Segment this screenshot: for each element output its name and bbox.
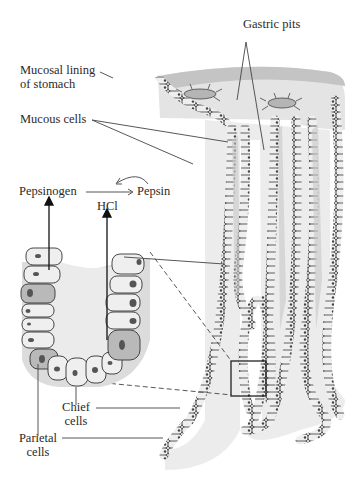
mucous-cells-label: Mucous cells — [20, 112, 86, 126]
enlarged-gland-base — [21, 248, 150, 387]
parietal-cells-label-line1: Parietal — [16, 431, 60, 445]
mucosal-lining-label-line2: of stomach — [20, 77, 75, 91]
gastric-pits-label: Gastric pits — [243, 17, 300, 31]
pepsin-label: Pepsin — [137, 184, 170, 198]
chief-cells-label-line1: Chief — [60, 400, 92, 414]
parietal-cells-label-line2: cells — [16, 445, 60, 459]
chief-cells-label-line2: cells — [60, 414, 92, 428]
hcl-label: HCl — [97, 199, 118, 213]
mucosal-lining-label-line1: Mucosal lining — [20, 63, 95, 77]
pepsinogen-label: Pepsinogen — [19, 184, 77, 198]
